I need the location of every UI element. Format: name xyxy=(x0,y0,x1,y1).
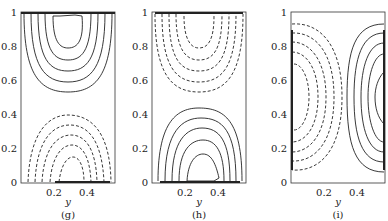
ytick: 0.2 xyxy=(132,143,148,154)
xtick: 0.2 xyxy=(46,187,62,198)
panel-g: 0 0.2 0.4 0.6 0.8 1 0.2 0.4 y (g) xyxy=(1,7,115,220)
ytick: 1 xyxy=(281,7,287,18)
positive-contours xyxy=(21,13,115,92)
negative-contours xyxy=(155,13,243,92)
ytick: 0.2 xyxy=(271,143,287,154)
ytick: 0.6 xyxy=(1,75,17,86)
negative-contours xyxy=(292,24,342,170)
x-axis-label: y xyxy=(64,196,71,207)
panel-label: (h) xyxy=(192,209,206,220)
ytick: 0 xyxy=(142,177,148,188)
ytick: 0.4 xyxy=(132,109,148,120)
ytick: 1 xyxy=(142,7,148,18)
ytick: 0.2 xyxy=(1,143,17,154)
ytick: 0.4 xyxy=(1,109,17,120)
xtick: 0.2 xyxy=(316,187,332,198)
xtick: 0.2 xyxy=(177,187,193,198)
ytick: 0 xyxy=(11,177,17,188)
panel-label: (i) xyxy=(332,209,343,220)
ytick: 0.8 xyxy=(1,41,17,52)
ytick: 0.6 xyxy=(132,75,148,86)
ytick: 0.4 xyxy=(271,109,287,120)
x-axis-label: y xyxy=(334,196,341,207)
axes-frame xyxy=(152,12,246,183)
contour-figure: 0 0.2 0.4 0.6 0.8 1 0.2 0.4 y (g) xyxy=(0,0,388,221)
ytick: 1 xyxy=(11,7,17,18)
ytick: 0.8 xyxy=(271,41,287,52)
positive-contours xyxy=(347,24,384,172)
ytick: 0.8 xyxy=(132,41,148,52)
x-axis-label: y xyxy=(195,196,202,207)
negative-contours xyxy=(28,115,111,182)
xtick: 0.4 xyxy=(349,187,365,198)
panel-label: (g) xyxy=(61,209,75,220)
panel-i: 0 0.2 0.4 0.6 0.8 1 0.2 0.4 y (i) xyxy=(271,7,385,220)
positive-contours xyxy=(158,108,242,182)
ytick: 0 xyxy=(281,177,287,188)
ytick: 0.6 xyxy=(271,75,287,86)
xtick: 0.4 xyxy=(210,187,226,198)
panel-h: 0 0.2 0.4 0.6 0.8 1 0.2 0.4 y (h) xyxy=(132,7,246,220)
axes-frame xyxy=(291,12,385,183)
xtick: 0.4 xyxy=(79,187,95,198)
